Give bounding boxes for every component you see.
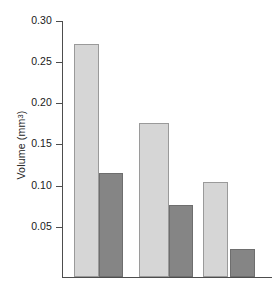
bar-chart-figure: Volume (mm3) 0.300.250.200.150.100.05 bbox=[0, 0, 277, 290]
y-axis-line bbox=[62, 21, 63, 278]
bar-dark-2 bbox=[169, 205, 193, 277]
y-tick-mark bbox=[56, 103, 62, 104]
y-tick-mark bbox=[56, 62, 62, 63]
bar-light-1 bbox=[74, 44, 99, 277]
y-tick-label: 0.30 bbox=[14, 14, 52, 26]
y-tick-mark bbox=[56, 227, 62, 228]
y-tick-label: 0.10 bbox=[14, 179, 52, 191]
bar-light-3 bbox=[203, 182, 228, 277]
y-axis-label-text: Volume (mm bbox=[15, 119, 27, 180]
x-axis-line bbox=[62, 277, 272, 278]
plot-area: Volume (mm3) 0.300.250.200.150.100.05 bbox=[0, 0, 277, 290]
y-axis-label-close: ) bbox=[15, 111, 27, 115]
y-tick-label: 0.05 bbox=[14, 220, 52, 232]
bar-light-2 bbox=[139, 123, 169, 277]
y-tick-mark bbox=[56, 21, 62, 22]
y-tick-label: 0.20 bbox=[14, 96, 52, 108]
y-tick-mark bbox=[56, 186, 62, 187]
bar-dark-1 bbox=[99, 173, 123, 277]
y-tick-label: 0.15 bbox=[14, 137, 52, 149]
y-tick-mark bbox=[56, 144, 62, 145]
y-tick-label: 0.25 bbox=[14, 55, 52, 67]
bar-dark-3 bbox=[230, 249, 255, 277]
